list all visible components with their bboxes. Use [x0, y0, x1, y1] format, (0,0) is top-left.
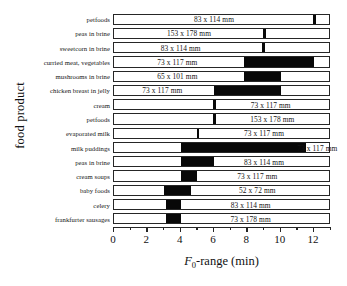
- range-segment: [181, 157, 214, 166]
- y-axis-category-label: celery: [93, 201, 110, 208]
- range-row: 153 x 178 mm: [113, 113, 330, 124]
- range-row: 83 x 114 mm: [113, 42, 330, 53]
- range-row: 73 x 117 mm: [113, 128, 330, 139]
- can-size-annotation: 83 x 114 mm: [231, 200, 271, 209]
- can-size-annotation: 65 x 101 mm: [157, 72, 197, 81]
- y-axis-category-label: mushrooms in brine: [56, 73, 110, 80]
- range-row: 73 x 117 mm: [113, 85, 330, 96]
- range-segment: [166, 200, 181, 209]
- range-row: 83 x 114 mm: [113, 199, 330, 210]
- range-row: 73 x 117 mm: [113, 56, 330, 67]
- can-size-annotation: 73 x 117 mm: [297, 143, 337, 152]
- range-row: 153 x 178 mm: [113, 28, 330, 39]
- x-axis-tick: [180, 227, 181, 232]
- can-size-annotation: 83 x 114 mm: [244, 157, 284, 166]
- can-size-annotation: 73 x 117 mm: [244, 129, 284, 138]
- can-size-annotation: 73 x 117 mm: [157, 57, 197, 66]
- range-row: 65 x 101 mm: [113, 71, 330, 82]
- range-row: 52 x 72 mm: [113, 185, 330, 196]
- y-axis-category-label: peas in brine: [75, 158, 110, 165]
- range-segment: [213, 114, 216, 123]
- range-row: 73 x 117 mm: [113, 142, 330, 153]
- range-segment: [181, 171, 198, 180]
- can-size-annotation: 73 x 117 mm: [251, 100, 291, 109]
- range-segment: [181, 143, 307, 152]
- y-axis-category-label: peas in brine: [75, 30, 110, 37]
- y-axis-category-label: cream: [93, 101, 110, 108]
- x-axis-tick: [213, 227, 214, 232]
- can-size-annotation: 83 x 114 mm: [194, 15, 234, 24]
- x-axis-minor-tick: [196, 227, 197, 230]
- range-segment: [313, 15, 316, 24]
- y-axis-category-label: cream soups: [76, 173, 110, 180]
- x-axis-tick-label: 4: [177, 233, 183, 245]
- can-size-annotation: 83 x 114 mm: [161, 43, 201, 52]
- range-segment: [164, 186, 191, 195]
- can-size-annotation: 73 x 117 mm: [237, 172, 277, 181]
- x-axis-minor-tick: [330, 227, 331, 230]
- can-size-annotation: 153 x 178 mm: [250, 114, 294, 123]
- range-segment: [262, 43, 265, 52]
- y-axis-category-label: baby foods: [80, 187, 110, 194]
- y-axis-category-label: evaporated milk: [66, 130, 110, 137]
- y-axis-category-label: frankfurter sausages: [55, 215, 110, 222]
- range-segment: [166, 214, 181, 223]
- x-axis-minor-tick: [163, 227, 164, 230]
- x-axis-tick-label: 12: [308, 233, 319, 245]
- y-axis-category-label: curried meat, vegetables: [44, 58, 110, 65]
- x-axis-tick: [246, 227, 247, 232]
- range-segment: [244, 57, 314, 66]
- x-axis-minor-tick: [230, 227, 231, 230]
- x-axis-title-rest: -range (min): [196, 254, 259, 268]
- x-axis-tick-label: 0: [110, 233, 116, 245]
- y-axis-category-label: petfoods: [87, 116, 110, 123]
- y-axis-category-label: chicken breast in jelly: [50, 87, 110, 94]
- y-axis-category-label: petfoods: [87, 16, 110, 23]
- x-axis-tick: [113, 227, 114, 232]
- range-row: 83 x 114 mm: [113, 14, 330, 25]
- x-axis-tick-label: 2: [144, 233, 150, 245]
- plot-area: 83 x 114 mm153 x 178 mm83 x 114 mm73 x 1…: [113, 12, 330, 226]
- x-axis-tick-label: 10: [274, 233, 285, 245]
- f0-range-chart: food product petfoodspeas in brinesweetc…: [0, 0, 347, 286]
- x-axis-tick-label: 6: [210, 233, 216, 245]
- range-segment: [213, 100, 216, 109]
- can-size-annotation: 153 x 178 mm: [167, 29, 211, 38]
- x-axis-tick: [146, 227, 147, 232]
- x-axis-tick: [313, 227, 314, 232]
- y-axis-category-label: sweetcorn in brine: [60, 44, 110, 51]
- y-axis-category-label: milk puddings: [71, 144, 110, 151]
- x-axis-minor-tick: [296, 227, 297, 230]
- x-axis-minor-tick: [130, 227, 131, 230]
- range-row: 73 x 117 mm: [113, 170, 330, 181]
- can-size-annotation: 73 x 117 mm: [142, 86, 182, 95]
- can-size-annotation: 73 x 178 mm: [231, 214, 271, 223]
- range-segment: [263, 29, 266, 38]
- can-size-annotation: 52 x 72 mm: [239, 186, 276, 195]
- range-row: 73 x 178 mm: [113, 213, 330, 224]
- x-axis-symbol: F: [184, 254, 192, 268]
- x-axis-tick-label: 8: [244, 233, 250, 245]
- range-segment: [214, 86, 281, 95]
- x-axis-title: F0-range (min): [113, 254, 330, 270]
- range-row: 83 x 114 mm: [113, 156, 330, 167]
- x-axis-tick: [280, 227, 281, 232]
- range-row: 73 x 117 mm: [113, 99, 330, 110]
- x-axis-minor-tick: [263, 227, 264, 230]
- y-axis-category-labels: petfoodspeas in brinesweetcorn in brinec…: [18, 12, 110, 226]
- range-segment: [244, 72, 281, 81]
- range-segment: [197, 129, 200, 138]
